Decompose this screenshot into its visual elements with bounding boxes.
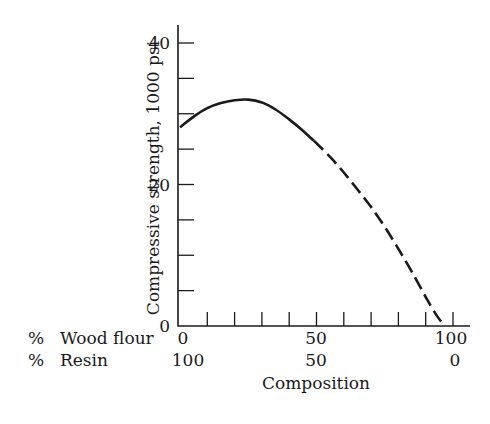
- resin-tick-labels: 100500: [172, 350, 461, 370]
- axes: [178, 25, 470, 327]
- wood-flour-tick-50: 50: [305, 328, 327, 348]
- resin-tick-50: 50: [305, 350, 327, 370]
- resin-row-label: Resin: [60, 350, 108, 370]
- resin-percent-sign: %: [28, 350, 44, 370]
- series-group: [180, 99, 445, 326]
- wood-flour-percent-sign: %: [28, 328, 44, 348]
- wood-flour-tick-labels: 050100: [178, 328, 468, 348]
- y-axis-label: Compressive strength, 1000 psi: [143, 40, 163, 315]
- resin-tick-0: 0: [450, 350, 461, 370]
- x-ticks: [207, 312, 453, 326]
- wood-flour-tick-100: 100: [435, 328, 467, 348]
- x-axis-label: Composition: [262, 373, 370, 393]
- series-line-extrapolated: [314, 141, 445, 326]
- chart-svg: 02040 Compressive strength, 1000 psi Com…: [0, 0, 490, 424]
- wood-flour-tick-0: 0: [178, 328, 189, 348]
- resin-tick-100: 100: [172, 350, 204, 370]
- wood-flour-row-label: Wood flour: [60, 328, 155, 348]
- y-tick-label-0: 0: [159, 316, 170, 336]
- series-line-measured: [180, 99, 314, 140]
